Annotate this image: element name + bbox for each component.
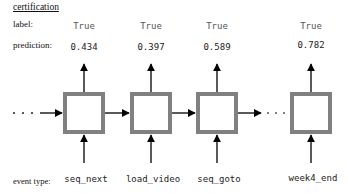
cell-box-1 <box>65 94 103 132</box>
step-4-event: week4_end <box>289 173 338 183</box>
cell-box-2 <box>132 94 170 132</box>
leading-ellipsis-icon <box>13 112 33 114</box>
step-2-event: load_video <box>126 174 180 184</box>
step-3-event: seq_goto <box>197 174 240 184</box>
cell-box-4 <box>292 94 330 132</box>
rnn-diagram <box>0 0 348 193</box>
cell-box-3 <box>198 94 236 132</box>
middle-ellipsis-icon <box>267 112 285 114</box>
step-1-event: seq_next <box>64 174 107 184</box>
